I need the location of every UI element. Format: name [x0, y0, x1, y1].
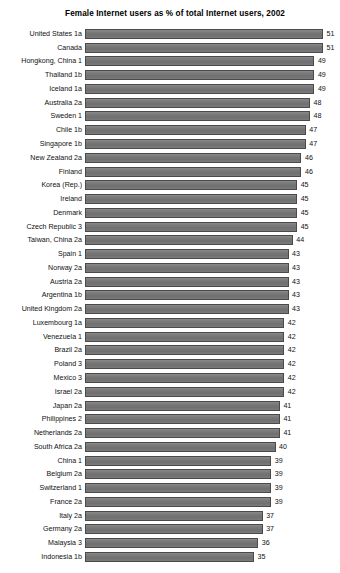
bar-value-label: 46: [301, 154, 312, 162]
bar: [85, 29, 323, 39]
bar-row: United Kingdom 2a43: [0, 302, 340, 316]
bar-category-label: Italy 2a: [0, 512, 85, 520]
bar-value-label: 45: [297, 209, 308, 217]
bar-category-label: Czech Republic 3: [0, 223, 85, 231]
bar-track: 37: [85, 523, 340, 537]
bar-track: 44: [85, 233, 340, 247]
bar-value-label: 48: [310, 99, 321, 107]
bar-category-label: Poland 3: [0, 360, 85, 368]
bar-value-label: 43: [289, 305, 300, 313]
bar: [85, 318, 284, 328]
bar-value-label: 43: [289, 291, 300, 299]
bar-row: Brazil 2a42: [0, 344, 340, 358]
bar-value-label: 43: [289, 250, 300, 258]
bar: [85, 332, 284, 342]
bar-track: 43: [85, 261, 340, 275]
bar-category-label: Canada: [0, 44, 85, 52]
bar-value-label: 40: [276, 443, 287, 451]
bar-category-label: United Kingdom 2a: [0, 305, 85, 313]
bar-row: Israel 2a42: [0, 385, 340, 399]
bar: [85, 167, 301, 177]
bar-track: 43: [85, 275, 340, 289]
bar-value-label: 36: [258, 539, 269, 547]
bar: [85, 235, 293, 245]
bar-row: Iceland 1a49: [0, 82, 340, 96]
bar: [85, 180, 297, 190]
bar-value-label: 42: [284, 388, 295, 396]
bar-row: Netherlands 2a41: [0, 426, 340, 440]
bar-row: Spain 143: [0, 247, 340, 261]
bar-track: 36: [85, 536, 340, 550]
bar: [85, 524, 263, 534]
bar-row: Chile 1b47: [0, 123, 340, 137]
bar-row: Venezuela 142: [0, 330, 340, 344]
bar-category-label: Taiwan, China 2a: [0, 236, 85, 244]
bar-track: 39: [85, 495, 340, 509]
bar-category-label: Netherlands 2a: [0, 429, 85, 437]
bar-track: 45: [85, 192, 340, 206]
bar: [85, 70, 314, 80]
bar: [85, 469, 271, 479]
bar-row: Poland 342: [0, 357, 340, 371]
bar-row: Taiwan, China 2a44: [0, 233, 340, 247]
bar-value-label: 51: [323, 44, 334, 52]
bar-value-label: 42: [284, 333, 295, 341]
bar: [85, 43, 323, 53]
bar-value-label: 49: [314, 57, 325, 65]
bar-category-label: Japan 2a: [0, 402, 85, 410]
plot-area: United States 1a51Canada51Hongkong, Chin…: [0, 27, 340, 564]
bar-track: 43: [85, 247, 340, 261]
bar: [85, 277, 289, 287]
bar-track: 39: [85, 454, 340, 468]
bar-category-label: Denmark: [0, 209, 85, 217]
bar-value-label: 44: [293, 236, 304, 244]
bar-row: Italy 2a37: [0, 509, 340, 523]
bar-category-label: New Zealand 2a: [0, 154, 85, 162]
bar: [85, 442, 276, 452]
bar-row: France 2a39: [0, 495, 340, 509]
bar-value-label: 45: [297, 223, 308, 231]
bar-category-label: Singapore 1b: [0, 140, 85, 148]
bar-row: Norway 2a43: [0, 261, 340, 275]
bar-row: Luxembourg 1a42: [0, 316, 340, 330]
bar: [85, 290, 289, 300]
bar-category-label: Thailand 1b: [0, 71, 85, 79]
bar-category-label: China 1: [0, 457, 85, 465]
bar-value-label: 43: [289, 264, 300, 272]
bar-category-label: Switzerland 1: [0, 484, 85, 492]
bar: [85, 497, 271, 507]
bar-track: 51: [85, 41, 340, 55]
bar: [85, 373, 284, 383]
bar-row: Canada51: [0, 41, 340, 55]
bar-track: 46: [85, 165, 340, 179]
bar-category-label: Iceland 1a: [0, 85, 85, 93]
bar-category-label: Austria 2a: [0, 278, 85, 286]
bar: [85, 359, 284, 369]
bar: [85, 387, 284, 397]
bar: [85, 208, 297, 218]
bar-track: 48: [85, 96, 340, 110]
chart-title: Female Internet users as % of total Inte…: [0, 0, 340, 19]
bar: [85, 153, 301, 163]
bar-category-label: Germany 2a: [0, 525, 85, 533]
bar: [85, 111, 310, 121]
bar: [85, 456, 271, 466]
bar-track: 49: [85, 82, 340, 96]
bar-row: Sweden 148: [0, 110, 340, 124]
bar: [85, 56, 314, 66]
bar-track: 37: [85, 509, 340, 523]
bar-value-label: 47: [306, 140, 317, 148]
bar-row: Singapore 1b47: [0, 137, 340, 151]
bar-value-label: 45: [297, 181, 308, 189]
bar-track: 41: [85, 412, 340, 426]
bar-value-label: 39: [271, 457, 282, 465]
bar-track: 42: [85, 357, 340, 371]
bar-row: Japan 2a41: [0, 399, 340, 413]
bar: [85, 263, 289, 273]
bar: [85, 345, 284, 355]
bar-row: United States 1a51: [0, 27, 340, 41]
bar-value-label: 42: [284, 374, 295, 382]
bar-track: 43: [85, 302, 340, 316]
bar-category-label: Belgium 2a: [0, 470, 85, 478]
bar-category-label: Chile 1b: [0, 126, 85, 134]
